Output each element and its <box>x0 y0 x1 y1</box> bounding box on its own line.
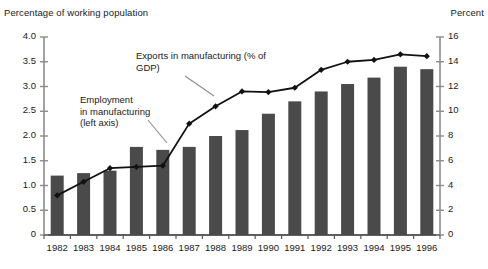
bar-1984 <box>104 171 117 235</box>
right-axis-title: Percent <box>451 7 484 18</box>
bar-1990 <box>262 114 275 235</box>
line-marker-1994 <box>371 57 377 63</box>
left-axis-tick-label: 1.5 <box>10 154 36 165</box>
right-axis-tick-label: 16 <box>448 30 474 41</box>
bar-1989 <box>236 130 249 235</box>
right-axis-tick-label: 6 <box>448 154 474 165</box>
right-axis-tick-label: 12 <box>448 80 474 91</box>
line-marker-1993 <box>345 59 351 65</box>
right-axis-tick-label: 14 <box>448 55 474 66</box>
left-axis-tick-label: 4.0 <box>10 30 36 41</box>
right-axis-tick-label: 2 <box>448 203 474 214</box>
bar-1988 <box>209 136 222 235</box>
bar-1985 <box>130 147 143 235</box>
right-axis-tick-label: 0 <box>448 228 474 239</box>
bar-1993 <box>341 84 354 235</box>
bar-1994 <box>368 78 381 235</box>
line-marker-1984 <box>107 165 113 171</box>
right-axis-tick-label: 10 <box>448 104 474 115</box>
annotation-employment-label: Employment in manufacturing (left axis) <box>80 94 150 129</box>
left-axis-tick-label: 0.5 <box>10 203 36 214</box>
left-axis-tick-label: 3.5 <box>10 55 36 66</box>
left-axis-tick-label: 1.0 <box>10 179 36 190</box>
x-axis-tick-label: 1996 <box>412 242 442 253</box>
bar-1991 <box>288 101 301 235</box>
left-axis-title: Percentage of working population <box>4 7 148 18</box>
bar-1995 <box>394 67 407 235</box>
left-axis-tick-label: 3.0 <box>10 80 36 91</box>
bar-1992 <box>315 91 328 235</box>
line-marker-1996 <box>424 53 430 59</box>
bar-1982 <box>51 176 64 235</box>
leader-line-exports <box>185 76 214 96</box>
right-axis-tick-label: 8 <box>448 129 474 140</box>
left-axis-tick-label: 2.5 <box>10 104 36 115</box>
chart-container: Percentage of working population Percent… <box>0 0 488 269</box>
bar-1996 <box>420 69 433 235</box>
line-marker-1990 <box>265 89 271 95</box>
chart-plot-area <box>0 0 488 269</box>
left-axis-tick-label: 0 <box>10 228 36 239</box>
annotation-exports-label: Exports in manufacturing (% of GDP) <box>136 50 266 73</box>
line-marker-1995 <box>397 51 403 57</box>
leader-line-employment <box>148 120 167 143</box>
bar-1987 <box>183 147 196 235</box>
right-axis-tick-label: 4 <box>448 179 474 190</box>
left-axis-tick-label: 2.0 <box>10 129 36 140</box>
